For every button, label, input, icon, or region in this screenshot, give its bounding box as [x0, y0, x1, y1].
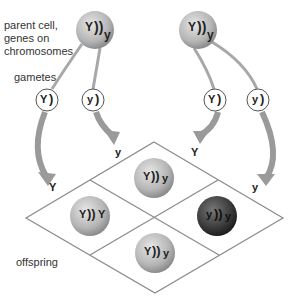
parent-left-allele2: y	[104, 28, 111, 42]
grid-header-left-top: Y	[49, 181, 56, 193]
grid-header-left-bottom: y	[115, 146, 121, 158]
chromosome-icon: )	[95, 91, 99, 106]
grid-header-right-bottom: y	[252, 181, 258, 193]
offspring-right-allele2: y	[225, 210, 231, 222]
chromosome-icon: ))	[94, 19, 103, 35]
chromosome-icon: ))	[87, 206, 96, 221]
gametes	[36, 89, 269, 111]
gamete-allele-3: Y	[208, 93, 215, 105]
offspring-left-allele2: Y	[98, 208, 105, 220]
parent-gamete-lines	[52, 42, 257, 89]
chromosome-icon: ))	[197, 19, 206, 35]
offspring-bottom-allele1: Y	[144, 245, 151, 257]
offspring-left-allele1: Y	[79, 208, 86, 220]
gamete-allele-2: y	[87, 93, 93, 105]
chromosome-icon: ))	[214, 206, 223, 221]
offspring-bottom-allele2: y	[163, 247, 169, 259]
parent-right-allele2: y	[207, 28, 214, 42]
parent-right-allele1: Y	[188, 20, 196, 34]
parent-label-line1: parent cell,	[4, 19, 58, 32]
chromosome-icon: )	[260, 91, 264, 106]
grid-header-right-top: Y	[191, 146, 198, 158]
offspring-right-allele1: y	[206, 208, 212, 220]
gamete-allele-1: Y	[40, 93, 47, 105]
parent-left-allele1: Y	[85, 20, 93, 34]
offspring-top-allele2: y	[162, 172, 168, 184]
offspring-top-allele1: Y	[143, 170, 150, 182]
chromosome-icon: ))	[152, 243, 161, 258]
parent-label-line3: chromosomes	[4, 45, 73, 58]
offspring-label: offspring	[16, 256, 58, 269]
gamete-allele-4: y	[252, 93, 258, 105]
chromosome-icon: ))	[151, 168, 160, 183]
gametes-label: gametes	[14, 71, 56, 84]
chromosome-icon: )	[49, 91, 53, 106]
chromosome-icon: )	[217, 91, 221, 106]
parent-label-line2: genes on	[4, 32, 49, 45]
